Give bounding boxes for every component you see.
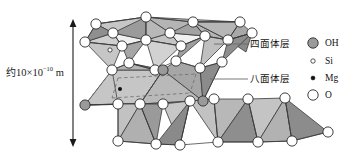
atom-o (213, 137, 223, 147)
atom-o (235, 17, 245, 27)
atom-o (209, 94, 219, 104)
atom-o (280, 93, 290, 103)
atom-o (141, 35, 151, 45)
atom-o (80, 37, 90, 47)
legend-marker-o (308, 90, 318, 100)
scale-prefix: 约 (6, 67, 16, 78)
atom-o (113, 136, 123, 146)
legend-label-o: O (325, 91, 332, 101)
atom-o (200, 31, 210, 41)
atom-o (108, 28, 118, 38)
legend-label-mg: Mg (325, 74, 338, 84)
atom-o (113, 99, 123, 109)
legend-marker-mg (311, 76, 315, 80)
legend-marker-oh (308, 38, 318, 48)
scale-exponent: −10 (43, 65, 53, 72)
atom-o (188, 17, 198, 27)
atom-o (247, 28, 257, 38)
atom-o (323, 127, 333, 137)
tetrahedron (285, 98, 328, 141)
atoms-magnesium (118, 87, 122, 91)
legend-markers (308, 38, 318, 100)
atom-o (165, 28, 175, 38)
atom-o (185, 96, 195, 106)
tetrahedron (85, 42, 122, 70)
atom-o (217, 57, 227, 67)
atom-o (91, 19, 101, 29)
atom-o (135, 99, 145, 109)
scale-label: 约10×10−10 m (6, 66, 64, 78)
atom-o (175, 140, 185, 150)
scale-mantissa: 10×10 (16, 67, 43, 78)
legend-label-si: Si (325, 57, 333, 67)
callout-label-octahedral-layer: 八面体层 (250, 74, 290, 84)
atom-o (287, 136, 297, 146)
atoms-silicon (108, 48, 112, 52)
atom-si (108, 48, 112, 52)
atom-o (117, 41, 127, 51)
atom-oh (198, 96, 208, 106)
atom-o (253, 137, 263, 147)
atom-o (124, 58, 134, 68)
atom-o (141, 12, 151, 22)
scale-arrow (70, 19, 77, 147)
atom-o (171, 56, 181, 66)
scale-unit: m (53, 67, 64, 78)
atom-o (151, 139, 161, 149)
atom-o (158, 99, 168, 109)
callout-label-tetrahedral-layer: 四面体层 (250, 39, 290, 49)
atom-oh (158, 65, 168, 75)
legend-marker-si (311, 59, 315, 63)
atom-oh (80, 100, 90, 110)
structure-svg (0, 0, 358, 167)
atom-o (243, 94, 253, 104)
atom-o (176, 41, 186, 51)
atom-mg (118, 87, 122, 91)
atom-o (107, 65, 117, 75)
legend-label-oh: OH (325, 39, 339, 49)
crystal-structure-figure: 约10×10−10 m 四面体层 八面体层 OH Si Mg O (0, 0, 358, 167)
atom-o (195, 63, 205, 73)
